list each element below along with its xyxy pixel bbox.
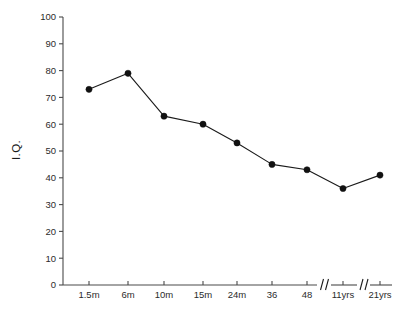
y-tick-label-70: 70 bbox=[45, 92, 56, 103]
y-tick-label-20: 20 bbox=[45, 226, 56, 237]
series-line-iq bbox=[89, 73, 380, 188]
x-tick-label-11yrs: 11yrs bbox=[332, 289, 355, 300]
x-tick-label-15m: 15m bbox=[194, 289, 213, 300]
data-point-10m bbox=[161, 113, 167, 119]
y-tick-label-40: 40 bbox=[45, 172, 56, 183]
x-tick-label-36: 36 bbox=[267, 289, 278, 300]
data-point-21yrs bbox=[377, 172, 383, 178]
x-axis-break-mark bbox=[360, 279, 363, 290]
y-tick-label-50: 50 bbox=[45, 145, 56, 156]
data-point-11yrs bbox=[340, 185, 346, 191]
x-tick-label-48: 48 bbox=[302, 289, 313, 300]
x-tick-label-10m: 10m bbox=[155, 289, 174, 300]
y-tick-label-60: 60 bbox=[45, 119, 56, 130]
data-point-24m bbox=[234, 140, 240, 146]
x-tick-label-6m: 6m bbox=[121, 289, 134, 300]
y-axis-title: I.Q. bbox=[10, 140, 22, 160]
data-point-1.5m bbox=[86, 86, 92, 92]
chart-canvas: 0102030405060708090100I.Q.1.5m6m10m15m24… bbox=[0, 0, 412, 322]
y-tick-label-10: 10 bbox=[45, 253, 56, 264]
x-tick-label-1.5m: 1.5m bbox=[78, 289, 99, 300]
x-axis-break-mark bbox=[321, 279, 324, 290]
x-axis-break-mark bbox=[326, 279, 329, 290]
iq-line-chart: 0102030405060708090100I.Q.1.5m6m10m15m24… bbox=[0, 0, 412, 322]
y-tick-label-90: 90 bbox=[45, 38, 56, 49]
x-tick-label-24m: 24m bbox=[228, 289, 247, 300]
y-tick-label-100: 100 bbox=[40, 11, 56, 22]
data-point-48 bbox=[304, 167, 310, 173]
data-point-36 bbox=[269, 161, 275, 167]
data-point-6m bbox=[125, 70, 131, 76]
y-tick-label-80: 80 bbox=[45, 65, 56, 76]
y-tick-label-30: 30 bbox=[45, 199, 56, 210]
y-tick-label-0: 0 bbox=[51, 279, 56, 290]
data-point-15m bbox=[200, 121, 206, 127]
x-tick-label-21yrs: 21yrs bbox=[368, 289, 391, 300]
